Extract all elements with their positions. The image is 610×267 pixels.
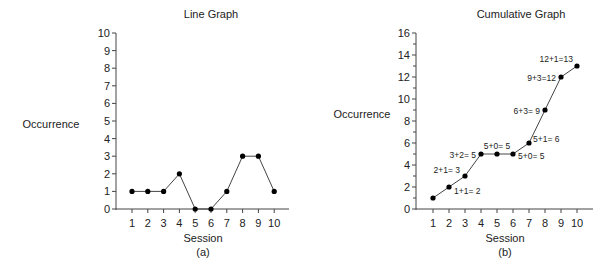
data-annotation: 9+3=12	[527, 73, 556, 83]
chart-title: Cumulative Graph	[477, 8, 566, 20]
data-point-marker	[240, 154, 245, 159]
data-point-marker	[462, 173, 467, 178]
x-tick-label: 6	[510, 217, 516, 229]
chart-title: Line Graph	[184, 8, 238, 20]
data-point-marker	[574, 63, 579, 68]
y-tick-label: 10	[98, 27, 110, 39]
x-axis-label: Session	[183, 232, 222, 244]
y-tick-label: 0	[404, 203, 410, 215]
x-tick-label: 7	[526, 217, 532, 229]
data-annotation: 12+1=13	[539, 54, 573, 64]
y-tick-label: 8	[104, 62, 110, 74]
data-point-marker	[526, 140, 531, 145]
x-tick-label: 8	[240, 217, 246, 229]
data-point-marker	[272, 189, 277, 194]
data-point-marker	[161, 189, 166, 194]
x-tick-label: 3	[462, 217, 468, 229]
y-tick-label: 8	[404, 115, 410, 127]
x-tick-label: 6	[208, 217, 214, 229]
data-point-marker	[558, 74, 563, 79]
x-axis-label: Session	[485, 232, 524, 244]
x-tick-label: 2	[446, 217, 452, 229]
data-point-marker	[208, 206, 213, 211]
data-point-marker	[193, 206, 198, 211]
x-tick-label: 4	[478, 217, 484, 229]
data-annotation: 6+3= 9	[514, 106, 541, 116]
x-tick-label: 3	[161, 217, 167, 229]
y-tick-label: 9	[104, 45, 110, 57]
y-tick-label: 6	[104, 97, 110, 109]
data-annotation: 5+0= 5	[484, 141, 511, 151]
chart-caption: (a)	[196, 246, 209, 258]
x-tick-label: 10	[268, 217, 280, 229]
y-tick-label: 4	[404, 159, 410, 171]
x-tick-label: 4	[176, 217, 182, 229]
figure: Line GraphOccurrence01234567891012345678…	[0, 0, 610, 267]
x-tick-label: 9	[255, 217, 261, 229]
y-axis-label: Occurrence	[23, 118, 80, 130]
y-tick-label: 0	[104, 203, 110, 215]
y-tick-label: 16	[398, 27, 410, 39]
y-tick-label: 12	[398, 71, 410, 83]
data-line	[433, 66, 577, 198]
x-tick-label: 2	[145, 217, 151, 229]
data-annotation: 5+0= 5	[518, 151, 545, 161]
y-tick-label: 4	[104, 133, 110, 145]
y-tick-label: 2	[104, 168, 110, 180]
data-point-marker	[430, 195, 435, 200]
y-tick-label: 2	[404, 181, 410, 193]
x-tick-label: 1	[129, 217, 135, 229]
data-point-marker	[510, 151, 515, 156]
y-tick-label: 10	[398, 93, 410, 105]
x-tick-label: 5	[494, 217, 500, 229]
y-tick-label: 5	[104, 115, 110, 127]
y-tick-label: 1	[104, 185, 110, 197]
data-line	[132, 156, 274, 209]
line-graph-chart: Line GraphOccurrence01234567891012345678…	[23, 8, 289, 258]
data-point-marker	[145, 189, 150, 194]
data-point-marker	[446, 184, 451, 189]
data-point-marker	[224, 189, 229, 194]
y-axis-label: Occurrence	[334, 108, 391, 120]
y-tick-label: 3	[104, 150, 110, 162]
y-tick-label: 7	[104, 80, 110, 92]
x-tick-label: 8	[542, 217, 548, 229]
data-annotation: 5+1= 6	[533, 134, 560, 144]
x-tick-label: 1	[430, 217, 436, 229]
data-point-marker	[478, 151, 483, 156]
y-tick-label: 14	[398, 49, 410, 61]
data-point-marker	[256, 154, 261, 159]
data-point-marker	[177, 171, 182, 176]
chart-caption: (b)	[498, 246, 511, 258]
data-annotation: 1+1= 2	[454, 186, 481, 196]
data-point-marker	[542, 107, 547, 112]
cumulative-graph-chart: Cumulative GraphOccurrence02468101214161…	[334, 8, 593, 258]
data-annotation: 2+1= 3	[434, 165, 461, 175]
x-tick-label: 10	[571, 217, 583, 229]
x-tick-label: 9	[558, 217, 564, 229]
data-annotation: 3+2= 5	[450, 150, 477, 160]
data-point-marker	[129, 189, 134, 194]
data-point-marker	[494, 151, 499, 156]
y-tick-label: 6	[404, 137, 410, 149]
x-tick-label: 5	[192, 217, 198, 229]
x-tick-label: 7	[224, 217, 230, 229]
